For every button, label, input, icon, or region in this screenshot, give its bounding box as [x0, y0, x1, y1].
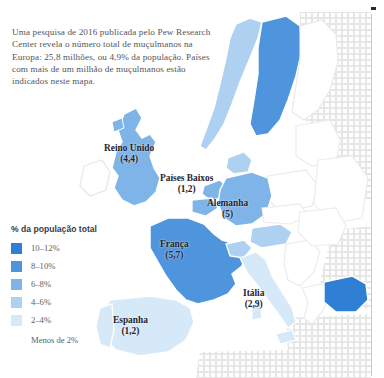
map-label-reino-unido-value: (4,4): [104, 154, 154, 165]
legend-label-6-8: 6–8%: [31, 279, 51, 289]
legend-swatch-4-6: [11, 297, 22, 308]
legend-item-under-2: Menos de 2%: [11, 332, 129, 348]
legend-item-4-6: 4–6%: [11, 294, 129, 310]
map-label-italia: Itália (2,9): [243, 288, 264, 310]
legend-label-under-2: Menos de 2%: [31, 335, 78, 345]
infographic-map: Uma pesquisa de 2016 publicada pelo Pew …: [0, 0, 384, 378]
legend-swatch-under-2: [11, 335, 22, 346]
map-label-paises-baixos-value: (1,2): [160, 184, 213, 195]
legend-item-10-12: 10–12%: [11, 240, 129, 256]
legend-swatch-2-4: [11, 315, 22, 326]
legend-title: % da população total: [11, 224, 107, 234]
map-label-espanha-name: Espanha: [113, 315, 148, 325]
right-divider-rule: [371, 14, 372, 376]
map-label-paises-baixos: Países Baixos (1,2): [160, 173, 213, 195]
legend-item-8-10: 8–10%: [11, 258, 129, 274]
map-label-paises-baixos-name: Países Baixos: [160, 173, 213, 183]
map-label-alemanha: Alemanha (5): [207, 198, 248, 220]
map-label-alemanha-value: (5): [207, 209, 248, 220]
intro-paragraph: Uma pesquisa de 2016 publicada pelo Pew …: [12, 26, 224, 87]
legend-label-4-6: 4–6%: [31, 297, 51, 307]
legend-swatch-10-12: [11, 243, 22, 254]
legend-swatch-6-8: [11, 279, 22, 290]
map-label-reino-unido: Reino Unido (4,4): [104, 143, 154, 165]
country-bulgaria: [324, 276, 368, 312]
legend-item-6-8: 6–8%: [11, 276, 129, 292]
legend-label-10-12: 10–12%: [31, 243, 60, 253]
map-label-reino-unido-name: Reino Unido: [104, 143, 154, 153]
map-label-italia-name: Itália: [243, 288, 264, 298]
map-label-franca: França (5,7): [160, 239, 189, 261]
legend: % da população total 10–12% 8–10% 6–8% 4…: [11, 224, 129, 350]
map-label-alemanha-name: Alemanha: [207, 198, 248, 208]
map-label-italia-value: (2,9): [243, 299, 264, 310]
legend-label-8-10: 8–10%: [31, 261, 55, 271]
map-label-espanha-value: (1,2): [113, 326, 148, 337]
legend-swatch-8-10: [11, 261, 22, 272]
map-label-espanha: Espanha (1,2): [113, 315, 148, 337]
legend-item-2-4: 2–4%: [11, 312, 129, 328]
legend-label-2-4: 2–4%: [31, 315, 51, 325]
map-label-franca-name: França: [160, 239, 189, 249]
map-label-franca-value: (5,7): [160, 250, 189, 261]
